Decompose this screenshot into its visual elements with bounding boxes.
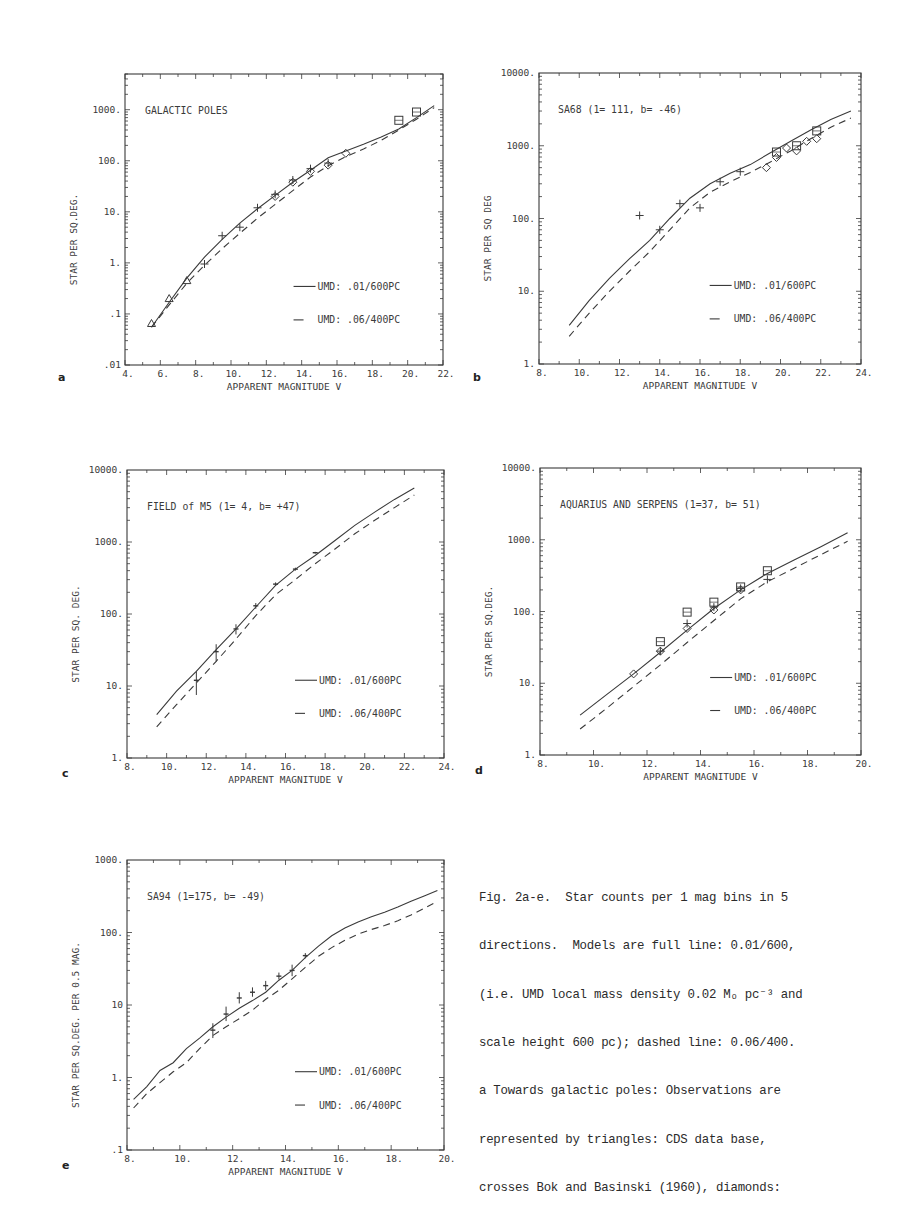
y-axis-label: STAR PER SQ DEG [482, 195, 493, 281]
y-tick-label: 100. [512, 213, 535, 224]
x-tick-label: 16. [280, 761, 297, 772]
y-tick-label: 10. [519, 677, 536, 688]
diamond-marker [813, 135, 821, 143]
y-tick-label: 10. [106, 680, 123, 691]
y-tick-label: 10000. [502, 462, 536, 473]
y-tick-label: 100. [513, 606, 536, 617]
x-tick-label: 12. [201, 761, 218, 772]
y-tick-label: 10000. [501, 67, 535, 78]
legend-label: UMD: .01/600PC [734, 280, 817, 291]
x-tick-label: 14. [240, 761, 257, 772]
y-tick-label: 10 [112, 999, 124, 1010]
cross-marker [307, 165, 315, 173]
cross-marker [218, 232, 226, 240]
y-tick-label: 100. [100, 608, 123, 619]
caption-line: (i.e. UMD local mass density 0.02 Mₒ pc⁻… [479, 987, 909, 1003]
x-tick-label: 22. [399, 761, 416, 772]
x-tick-label: 22. [437, 368, 454, 379]
x-tick-label: 24. [438, 761, 455, 772]
y-tick-label: 1000. [507, 534, 536, 545]
cross-marker [763, 575, 771, 583]
chart-panel-a: .01.11.10.100.1000.4.6.8.10.12.14.16.18.… [58, 74, 455, 392]
cross-marker [236, 223, 244, 231]
x-tick-label: 20. [359, 761, 376, 772]
legend-label: UMD: .01/600PC [319, 1066, 402, 1077]
x-tick-label: 10. [225, 368, 242, 379]
legend-label: UMD: .06/400PC [319, 1100, 402, 1111]
x-tick-label: 22. [815, 367, 832, 378]
plot-title: FIELD of M5 (1= 4, b= +47) [147, 501, 300, 512]
x-tick-label: 8. [193, 368, 204, 379]
legend-label: UMD: .06/400PC [734, 705, 817, 716]
x-tick-label: 8. [537, 758, 548, 769]
y-tick-label: 1000. [506, 140, 535, 151]
diamond-marker [793, 147, 801, 155]
legend-label: UMD: .06/400PC [318, 314, 401, 325]
x-tick-label: 8. [124, 761, 135, 772]
y-tick-label: 100. [98, 155, 121, 166]
chart-panel-c: 1.10.100.1000.10000.8.10.12.14.16.18.20.… [62, 464, 456, 785]
x-tick-label: 4. [122, 368, 133, 379]
x-tick-label: 8. [124, 1153, 135, 1164]
model-line-dashed [580, 541, 848, 729]
x-tick-label: 10. [161, 761, 178, 772]
caption-line: represented by triangles: CDS data base, [479, 1132, 909, 1148]
y-tick-label: 10. [518, 285, 535, 296]
x-tick-label: 12. [227, 1153, 244, 1164]
x-tick-label: 8. [536, 367, 547, 378]
panel-label: a [58, 371, 65, 384]
x-tick-label: 18. [802, 758, 819, 769]
legend-label: UMD: .06/400PC [734, 313, 817, 324]
y-axis-label: STAR PER SQ.DEG. PER 0.5 MAG. [70, 942, 81, 1108]
x-tick-label: 20. [438, 1153, 455, 1164]
x-tick-label: 14. [695, 758, 712, 769]
caption-line: Fig. 2a-e. Star counts per 1 mag bins in… [479, 890, 909, 906]
figure-caption: Fig. 2a-e. Star counts per 1 mag bins in… [479, 858, 909, 1206]
y-tick-label: 1. [112, 1072, 123, 1083]
y-tick-label: .1 [112, 1144, 124, 1155]
y-tick-label: .01 [104, 359, 121, 370]
x-tick-label: 12. [261, 368, 278, 379]
x-axis-label: APPARENT MAGNITUDE V [228, 1166, 343, 1177]
model-line-dashed [157, 495, 415, 727]
x-tick-label: 24. [855, 367, 872, 378]
cross-marker [710, 603, 718, 611]
y-tick-label: 1000. [94, 854, 123, 865]
model-line-solid [580, 533, 848, 715]
plot-title: AQUARIUS AND SERPENS (1=37, b= 51) [560, 499, 761, 510]
caption-line: scale height 600 pc); dashed line: 0.06/… [479, 1035, 909, 1051]
chart-panel-d: 1.10.100.1000.10000.8.10.12.14.16.18.20.… [475, 462, 873, 782]
chart-panel-e: .11.10100.1000.8.10.12.14.16.18.20.APPAR… [62, 854, 456, 1177]
y-axis-label: STAR PER SQ.DEG. [483, 586, 494, 678]
x-tick-label: 18. [367, 368, 384, 379]
y-tick-label: 1. [112, 752, 123, 763]
x-tick-label: 6. [158, 368, 169, 379]
cross-marker [676, 200, 684, 208]
x-tick-label: 14. [654, 367, 671, 378]
legend-label: UMD: .01/600PC [318, 281, 401, 292]
x-tick-label: 20. [855, 758, 872, 769]
legend-label: UMD: .01/600PC [734, 672, 817, 683]
x-tick-label: 10. [574, 367, 591, 378]
x-axis-label: APPARENT MAGNITUDE V [643, 380, 758, 391]
x-tick-label: 16. [331, 368, 348, 379]
legend-label: UMD: .06/400PC [319, 708, 402, 719]
x-tick-label: 10. [588, 758, 605, 769]
plot-title: SA94 (1=175, b= -49) [147, 891, 265, 902]
x-axis-label: APPARENT MAGNITUDE V [227, 381, 342, 392]
x-tick-label: 18. [386, 1153, 403, 1164]
y-axis-label: STAR PER SQ. DEG. [70, 585, 81, 682]
y-tick-label: 1000. [92, 104, 121, 115]
x-tick-label: 18. [320, 761, 337, 772]
x-tick-label: 14. [296, 368, 313, 379]
legend-label: UMD: .01/600PC [319, 675, 402, 686]
y-tick-label: 10. [104, 206, 121, 217]
cross-marker [736, 168, 744, 176]
caption-line: directions. Models are full line: 0.01/6… [479, 938, 909, 954]
caption-line: crosses Bok and Basinski (1960), diamond… [479, 1180, 909, 1196]
y-tick-label: 1000. [94, 536, 123, 547]
x-tick-label: 20. [775, 367, 792, 378]
plot-title: SA68 (1= 111, b= -46) [558, 104, 682, 115]
panel-label: e [62, 1159, 69, 1172]
model-line-dashed [569, 118, 851, 336]
